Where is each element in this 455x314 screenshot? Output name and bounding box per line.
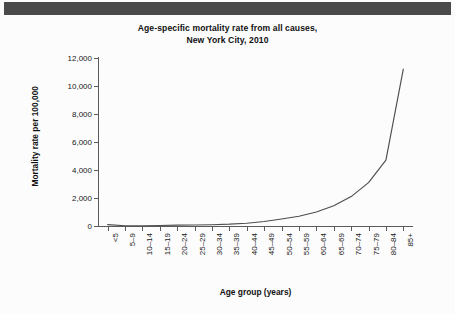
x-axis-tick-label: 75–79 xyxy=(373,233,381,255)
x-axis-tick xyxy=(160,227,161,231)
x-axis-tick-label: 70–74 xyxy=(355,233,363,255)
y-axis-tick-label: 4,000 xyxy=(72,166,92,175)
y-axis-tick-label: 6,000 xyxy=(72,138,92,147)
x-axis-tick-label: 55–59 xyxy=(303,233,311,255)
x-axis-tick-label: 30–34 xyxy=(216,233,224,255)
y-axis-tick xyxy=(94,142,98,143)
x-axis-tick-label: 60–64 xyxy=(320,233,328,255)
y-axis-tick xyxy=(94,58,98,59)
x-axis-tick xyxy=(369,227,370,231)
x-axis-tick-label: 15–19 xyxy=(164,233,172,255)
x-axis-tick xyxy=(177,227,178,231)
series-line-chart xyxy=(0,0,455,314)
x-axis-tick-label: 85+ xyxy=(407,233,415,247)
y-axis-tick-label: 12,000 xyxy=(68,54,92,63)
x-axis-tick xyxy=(108,227,109,231)
x-axis-tick-label: 10–14 xyxy=(146,233,154,255)
x-axis-tick xyxy=(386,227,387,231)
mortality-rate-line xyxy=(108,69,404,226)
x-axis-title: Age group (years) xyxy=(99,287,412,297)
x-axis-tick-label: 35–39 xyxy=(233,233,241,255)
x-axis-tick xyxy=(316,227,317,231)
y-axis-tick xyxy=(94,226,98,227)
x-axis-tick xyxy=(125,227,126,231)
x-axis-tick xyxy=(351,227,352,231)
y-axis-tick xyxy=(94,198,98,199)
y-axis-tick-label: 8,000 xyxy=(72,110,92,119)
x-axis-tick-label: 80–84 xyxy=(390,233,398,255)
x-axis-tick-label: 25–29 xyxy=(199,233,207,255)
x-axis-tick-label: <5 xyxy=(112,233,120,242)
x-axis-tick xyxy=(195,227,196,231)
y-axis-line xyxy=(98,57,99,227)
x-axis-tick xyxy=(212,227,213,231)
y-axis-tick xyxy=(94,170,98,171)
y-axis-tick-label: 0 xyxy=(88,222,92,231)
x-axis-tick-label: 45–49 xyxy=(268,233,276,255)
x-axis-tick xyxy=(142,227,143,231)
plot-wrapper: 02,0004,0006,0008,00010,00012,000 <55–91… xyxy=(0,0,455,314)
x-axis-tick-label: 50–54 xyxy=(286,233,294,255)
y-axis-tick xyxy=(94,114,98,115)
chart-page: Age-specific mortality rate from all cau… xyxy=(0,0,455,314)
x-axis-tick xyxy=(299,227,300,231)
y-axis-tick-label: 10,000 xyxy=(68,82,92,91)
x-axis-tick xyxy=(282,227,283,231)
y-axis-title: Mortality rate per 100,000 xyxy=(31,86,40,187)
x-axis-line xyxy=(98,226,413,227)
x-axis-tick xyxy=(229,227,230,231)
y-axis-tick-label: 2,000 xyxy=(72,194,92,203)
x-axis-tick xyxy=(403,227,404,231)
x-axis-tick-label: 20–24 xyxy=(181,233,189,255)
x-axis-tick xyxy=(247,227,248,231)
x-axis-tick-label: 5–9 xyxy=(129,233,137,246)
x-axis-tick-label: 65–69 xyxy=(338,233,346,255)
x-axis-tick xyxy=(334,227,335,231)
x-axis-tick-label: 40–44 xyxy=(251,233,259,255)
x-axis-tick xyxy=(264,227,265,231)
y-axis-tick xyxy=(94,86,98,87)
